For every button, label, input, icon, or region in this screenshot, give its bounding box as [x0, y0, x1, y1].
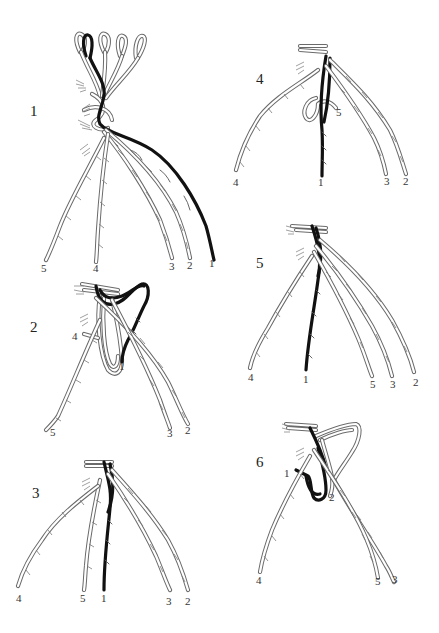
strand-label-4: 4 — [72, 330, 78, 342]
strand-label-1: 1 — [101, 592, 107, 604]
braiding-diagram: 1 — [0, 0, 439, 633]
strand-label-5: 5 — [370, 378, 376, 390]
strand-label-3: 3 — [166, 595, 172, 607]
strand-label-5: 5 — [80, 592, 86, 604]
strand-label-2: 2 — [403, 175, 409, 187]
strand-label-2: 2 — [329, 491, 335, 503]
strand-3 — [104, 132, 172, 258]
strand-label-3: 3 — [384, 175, 390, 187]
strand-2 — [320, 240, 414, 372]
step-number: 1 — [30, 103, 38, 119]
strand-label-2: 2 — [413, 376, 419, 388]
step-number: 3 — [32, 485, 40, 501]
strand-3 — [326, 66, 386, 174]
panel-step-5: 5 4 1 5 3 2 — [248, 226, 419, 390]
step-number: 6 — [256, 454, 264, 470]
strand-3 — [316, 246, 392, 376]
step-number: 4 — [256, 71, 264, 87]
strand-label-3: 3 — [169, 260, 175, 272]
strand-label-1: 1 — [119, 360, 125, 372]
strand-label-3: 3 — [390, 378, 396, 390]
strand-label-4: 4 — [248, 371, 254, 383]
strand-label-4: 4 — [233, 176, 239, 188]
strand-2 — [112, 470, 188, 590]
strand-label-1: 1 — [209, 257, 215, 269]
strand-label-2: 2 — [185, 424, 191, 436]
strand-label-1: 1 — [284, 467, 290, 479]
strand-label-1: 1 — [318, 176, 324, 188]
strand-label-3: 3 — [167, 427, 173, 439]
strand-label-5: 5 — [336, 106, 342, 118]
strand-4 — [250, 256, 312, 368]
strand-label-5: 5 — [50, 426, 56, 438]
strand-label-1: 1 — [303, 373, 309, 385]
panel-step-2: 2 4 — [30, 284, 191, 439]
strand-label-4: 4 — [256, 574, 262, 586]
strand-label-4: 4 — [93, 262, 99, 274]
step-number: 5 — [256, 255, 264, 271]
top-loops — [76, 34, 145, 58]
strand-label-2: 2 — [185, 595, 191, 607]
strand-label-5: 5 — [375, 575, 381, 587]
step-number: 2 — [30, 319, 38, 335]
panel-step-3: 3 4 5 1 3 2 — [16, 462, 191, 607]
strand-label-4: 4 — [16, 592, 22, 604]
strand-label-3: 3 — [392, 573, 398, 585]
panel-step-4: 4 5 4 1 3 2 — [233, 46, 409, 188]
strand-label-2: 2 — [187, 259, 193, 271]
strand-label-5: 5 — [41, 262, 47, 274]
panel-step-6: 6 1 2 — [256, 424, 398, 587]
strand-1-dark — [104, 462, 111, 590]
frayed-ends — [76, 80, 92, 156]
panel-step-1: 1 — [30, 34, 215, 274]
